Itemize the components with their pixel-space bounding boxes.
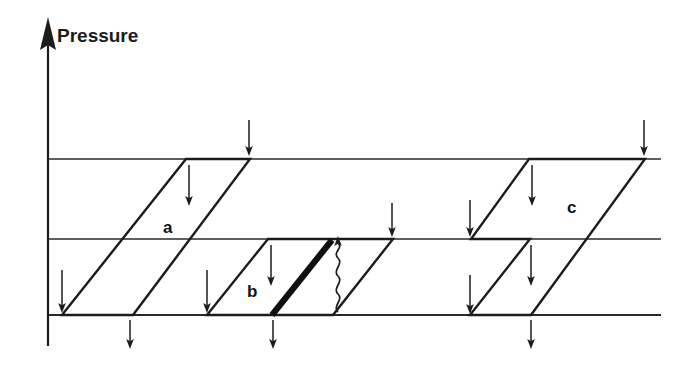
arrow-a-inlet-high-icon xyxy=(185,165,193,206)
cycle-b-thick-segment xyxy=(272,240,332,315)
arrow-a-outlet-low-icon xyxy=(126,320,134,349)
cycle-a-label: a xyxy=(163,218,173,237)
wavy-arrow-head xyxy=(334,236,342,246)
cycle-c xyxy=(470,159,645,315)
diagram-canvas: Pressure a b c xyxy=(0,0,692,371)
pressure-diagram: Pressure a b c xyxy=(0,0,692,371)
arrow-c-outlet-high-icon xyxy=(640,120,648,156)
arrow-c-mid-step-icon xyxy=(466,200,474,237)
arrow-b-outlet-low-icon xyxy=(269,320,277,349)
wavy-arrow-squiggle xyxy=(336,243,339,312)
arrow-a-outlet-high-icon xyxy=(245,120,253,156)
arrow-a-inlet-low-icon xyxy=(58,270,66,313)
cycle-a xyxy=(62,159,250,315)
arrow-b-outlet-mid-icon xyxy=(388,203,396,237)
pressure-axis-label: Pressure xyxy=(57,25,138,46)
cycle-a-outline xyxy=(62,159,250,315)
arrow-c-inlet-low-icon xyxy=(466,275,474,314)
pressure-axis xyxy=(40,17,56,346)
arrow-b-inlet-mid-icon xyxy=(267,245,275,286)
arrow-b-inlet-low-icon xyxy=(203,270,211,313)
arrow-c-inlet-high-icon xyxy=(528,165,536,206)
cycle-b xyxy=(207,239,393,315)
cycle-c-label: c xyxy=(567,198,576,217)
cycle-c-outline xyxy=(470,159,645,315)
cycle-b-label: b xyxy=(247,282,257,301)
arrow-c-outlet-low-icon xyxy=(527,320,535,349)
pressure-level-lines xyxy=(48,159,661,315)
arrow-c-mid-inner-icon xyxy=(527,245,535,286)
wavy-up-arrow-icon xyxy=(334,236,342,312)
